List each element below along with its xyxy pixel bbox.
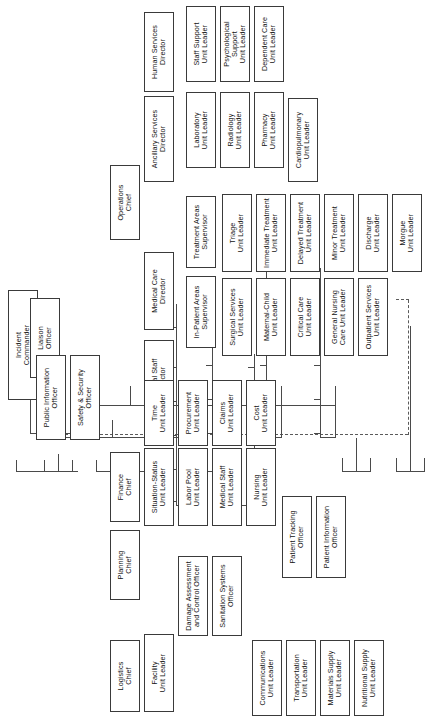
node-minor-treatment-unit-leader[interactable]: Minor Treatment Unit Leader: [324, 194, 354, 272]
node-safety-security-officer[interactable]: Safety & Security Officer: [70, 355, 100, 440]
node-transportation-unit-leader[interactable]: Transportation Unit Leader: [286, 640, 316, 716]
connector: [314, 365, 320, 366]
connector: [58, 454, 59, 472]
node-nutritional-supply-unit-leader[interactable]: Nutritional Supply Unit Leader: [354, 640, 384, 716]
node-planning-chief[interactable]: Planning Chief: [110, 530, 140, 600]
node-sanitation-systems-officer[interactable]: Sanitation Systems Officer: [212, 556, 242, 636]
node-labor-pool-unit-leader[interactable]: Labor Pool Unit Leader: [178, 448, 208, 526]
connector: [314, 433, 320, 434]
dashed-connector: [408, 300, 409, 435]
connector: [396, 458, 397, 472]
node-ancillary-services-director[interactable]: Ancillary Services Director: [144, 96, 174, 182]
connector: [335, 386, 336, 406]
node-psychological-support-unit-leader[interactable]: Psychological Support Unit Leader: [220, 6, 250, 82]
connector: [16, 471, 78, 472]
connector: [206, 365, 212, 366]
connector: [16, 460, 17, 472]
node-delayed-treatment-unit-leader[interactable]: Delayed Treatment Unit Leader: [290, 194, 320, 272]
connector: [112, 420, 113, 438]
node-operations-chief[interactable]: Operations Chief: [110, 165, 140, 240]
connector: [248, 367, 254, 368]
node-pharmacy-unit-leader[interactable]: Pharmacy Unit Leader: [254, 92, 284, 168]
node-claims-unit-leader[interactable]: Claims Unit Leader: [212, 380, 242, 446]
node-triage-unit-leader[interactable]: Triage Unit Leader: [222, 194, 252, 272]
node-maternal-child-unit-leader[interactable]: Maternal-Child Unit Leader: [256, 278, 286, 356]
node-medical-care-director[interactable]: Medical Care Director: [144, 252, 174, 330]
connector: [176, 304, 177, 506]
node-laboratory-unit-leader[interactable]: Laboratory Unit Leader: [186, 92, 216, 168]
connector: [314, 399, 320, 400]
node-nursing-unit-leader[interactable]: Nursing Unit Leader: [246, 448, 276, 526]
node-general-nursing-care-unit-leader[interactable]: General Nursing Care Unit Leader: [324, 278, 354, 356]
connector: [260, 365, 266, 366]
dashed-connector: [396, 299, 409, 300]
connector: [96, 460, 97, 472]
node-critical-care-unit-leader[interactable]: Critical Care Unit Leader: [290, 278, 320, 356]
connector: [281, 386, 282, 406]
node-human-services-director[interactable]: Human Services Director: [144, 12, 174, 92]
node-finance-chief[interactable]: Finance Chief: [110, 452, 140, 522]
connector: [72, 460, 73, 472]
connector: [356, 438, 357, 472]
node-treatment-areas-supervisor[interactable]: Treatment Areas Supervisor: [186, 196, 216, 268]
node-time-unit-leader[interactable]: Time Unit Leader: [144, 380, 174, 446]
node-dependent-care-unit-leader[interactable]: Dependent Care Unit Leader: [254, 6, 284, 82]
connector: [410, 326, 411, 472]
connector: [130, 386, 131, 406]
connector: [320, 437, 335, 438]
connector: [281, 406, 282, 438]
node-procurement-unit-leader[interactable]: Procurement Unit Leader: [178, 380, 208, 446]
node-medical-staff-unit-leader[interactable]: Medical Staff Unit Leader: [212, 448, 242, 526]
node-logistics-chief[interactable]: Logistics Chief: [110, 640, 140, 712]
connector: [335, 406, 336, 438]
node-inpatient-areas-supervisor[interactable]: In-Patient Areas Supervisor: [186, 276, 216, 348]
node-immediate-treatment-unit-leader[interactable]: Immediate Treatment Unit Leader: [256, 194, 286, 272]
node-damage-assessment-officer[interactable]: Damage Assessment and Control Officer: [178, 556, 208, 636]
node-public-information-officer[interactable]: Public Information Officer: [36, 355, 66, 440]
node-discharge-unit-leader[interactable]: Discharge Unit Leader: [358, 194, 388, 272]
node-outpatient-services-unit-leader[interactable]: Outpatient Services Unit Leader: [358, 278, 388, 356]
node-radiology-unit-leader[interactable]: Radiology Unit Leader: [220, 92, 250, 168]
node-facility-unit-leader[interactable]: Facility Unit Leader: [144, 634, 174, 712]
node-cost-unit-leader[interactable]: Cost Unit Leader: [246, 380, 276, 446]
connector: [342, 458, 343, 472]
node-staff-support-unit-leader[interactable]: Staff Support Unit Leader: [186, 6, 216, 82]
connector: [370, 458, 371, 472]
connector: [320, 268, 321, 438]
node-surgical-services-unit-leader[interactable]: Surgical Services Unit Leader: [222, 278, 252, 356]
node-patient-information-officer[interactable]: Patient Information Officer: [316, 496, 346, 578]
node-patient-tracking-officer[interactable]: Patient Tracking Officer: [282, 496, 312, 578]
connector: [44, 460, 45, 472]
node-communications-unit-leader[interactable]: Communications Unit Leader: [252, 640, 282, 716]
node-materials-supply-unit-leader[interactable]: Materials Supply Unit Leader: [320, 640, 350, 716]
node-situation-status-unit-leader[interactable]: Situation-Status Unit Leader: [144, 448, 174, 526]
node-morgue-unit-leader[interactable]: Morgue Unit Leader: [392, 194, 422, 272]
node-cardiopulmonary-unit-leader[interactable]: Cardiopulmonary Unit Leader: [288, 98, 318, 182]
